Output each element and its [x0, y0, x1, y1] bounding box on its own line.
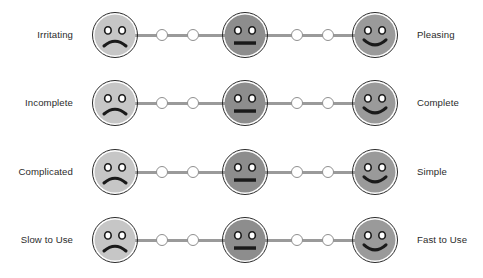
- row-left-anchor-label: Complicated: [19, 166, 73, 178]
- scale-point-6[interactable]: [322, 29, 334, 41]
- scale-track[interactable]: [92, 9, 398, 61]
- scale-point-2[interactable]: [156, 166, 168, 178]
- scale-point-2[interactable]: [156, 29, 168, 41]
- happy-face-icon[interactable]: [352, 149, 398, 195]
- scale-row: Slow to Use: [0, 206, 483, 274]
- sad-face-icon[interactable]: [92, 12, 138, 58]
- scale-point-5[interactable]: [291, 97, 303, 109]
- scale-row: Incomplete: [0, 69, 483, 137]
- scale-track[interactable]: [92, 146, 398, 198]
- sad-face-icon[interactable]: [92, 149, 138, 195]
- sad-face-icon[interactable]: [92, 80, 138, 126]
- sad-face-icon[interactable]: [92, 217, 138, 263]
- scale-point-5[interactable]: [291, 29, 303, 41]
- scale-point-5[interactable]: [291, 166, 303, 178]
- row-left-anchor-label: Irritating: [37, 29, 73, 41]
- neutral-face-icon[interactable]: [222, 217, 268, 263]
- row-left-anchor-label: Incomplete: [25, 97, 73, 109]
- scale-point-6[interactable]: [322, 234, 334, 246]
- neutral-face-icon[interactable]: [222, 80, 268, 126]
- scale-row: Irritating: [0, 1, 483, 69]
- scale-point-3[interactable]: [187, 29, 199, 41]
- neutral-face-icon[interactable]: [222, 149, 268, 195]
- scale-row: Complicated: [0, 138, 483, 206]
- scale-track[interactable]: [92, 214, 398, 266]
- row-right-anchor-label: Fast to Use: [417, 234, 467, 246]
- scale-point-6[interactable]: [322, 97, 334, 109]
- row-right-anchor-label: Pleasing: [417, 29, 455, 41]
- scale-point-3[interactable]: [187, 166, 199, 178]
- scale-point-3[interactable]: [187, 97, 199, 109]
- row-right-anchor-label: Simple: [417, 166, 447, 178]
- happy-face-icon[interactable]: [352, 80, 398, 126]
- ux-scale-figure: Irritating: [0, 0, 483, 278]
- scale-track[interactable]: [92, 77, 398, 129]
- scale-point-5[interactable]: [291, 234, 303, 246]
- row-right-anchor-label: Complete: [417, 97, 459, 109]
- scale-point-2[interactable]: [156, 234, 168, 246]
- happy-face-icon[interactable]: [352, 12, 398, 58]
- scale-point-2[interactable]: [156, 97, 168, 109]
- scale-point-6[interactable]: [322, 166, 334, 178]
- row-left-anchor-label: Slow to Use: [21, 234, 73, 246]
- happy-face-icon[interactable]: [352, 217, 398, 263]
- neutral-face-icon[interactable]: [222, 12, 268, 58]
- scale-point-3[interactable]: [187, 234, 199, 246]
